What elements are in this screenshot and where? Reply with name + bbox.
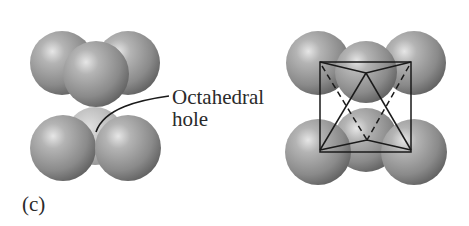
sphere	[95, 115, 161, 181]
right-sphere-model	[285, 31, 447, 185]
sphere	[63, 41, 129, 107]
left-sphere-model	[30, 31, 169, 181]
panel-label: (c)	[22, 194, 45, 215]
label-line-1: Octahedral	[172, 86, 264, 108]
octahedral-hole-label: Octahedral hole	[172, 86, 264, 130]
left-bottom-layer	[30, 107, 161, 181]
left-top-layer	[30, 31, 160, 107]
sphere	[30, 115, 96, 181]
figure-octahedral-hole: Octahedral hole (c)	[0, 0, 469, 226]
label-line-2: hole	[172, 108, 264, 130]
sphere	[335, 41, 397, 103]
